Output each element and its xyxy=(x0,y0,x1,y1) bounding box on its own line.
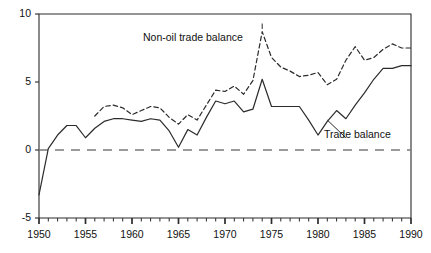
y-axis-tick-label: 10 xyxy=(7,7,31,19)
series-line-non-oil-trade-balance xyxy=(95,32,411,124)
y-axis-tick-label: 0 xyxy=(7,143,31,155)
x-axis-tick-label: 1955 xyxy=(63,228,109,240)
x-axis-tick-label: 1975 xyxy=(249,228,295,240)
x-axis-tick-label: 1990 xyxy=(388,228,431,240)
x-axis-tick-label: 1985 xyxy=(342,228,388,240)
x-axis-tick-label: 1960 xyxy=(109,228,155,240)
x-axis-tick-label: 1970 xyxy=(202,228,248,240)
x-axis-tick-label: 1965 xyxy=(156,228,202,240)
x-axis-tick-label: 1980 xyxy=(295,228,341,240)
series-label-non-oil-trade-balance: Non-oil trade balance xyxy=(143,31,243,43)
y-axis-tick-label: 5 xyxy=(7,75,31,87)
y-axis-tick-label: -5 xyxy=(7,211,31,223)
chart-container: 1050-51950195519601965197019751980198519… xyxy=(0,0,431,253)
x-axis-tick-label: 1950 xyxy=(16,228,62,240)
series-label-trade-balance: Trade balance xyxy=(324,128,391,140)
